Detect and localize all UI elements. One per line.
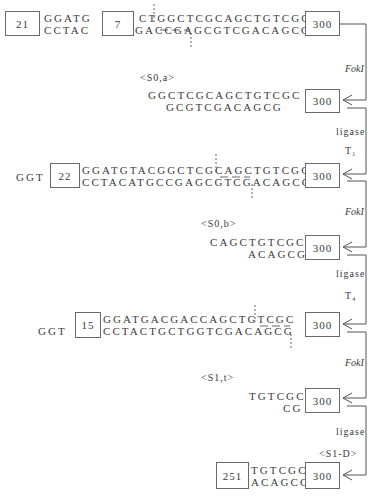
domain-box-251: 251 (216, 462, 249, 489)
strand-top: GGATGACGACCAGCTGTCGC (103, 313, 295, 325)
enzyme-label-ligase: ligase (336, 268, 365, 279)
state-label: <S1-D> (319, 448, 357, 459)
prefix-sequence: GGT (16, 171, 45, 183)
box-label: 300 (313, 242, 333, 254)
enzyme-label-foki: FokI (345, 63, 364, 74)
strand-top: TGTCGC (249, 390, 306, 402)
strand-bottom: ACAGCG (251, 476, 310, 488)
domain-box-300: 300 (305, 11, 340, 36)
domain-box-21: 21 (5, 11, 40, 36)
domain-box-15: 15 (75, 312, 101, 338)
box-label: 300 (313, 319, 333, 331)
box-label: 300 (313, 95, 333, 107)
state-label: <S1,t> (201, 372, 234, 383)
prefix-sequence: GGT (38, 325, 67, 337)
domain-box-300: 300 (305, 163, 340, 188)
transducer-label: T₄ (345, 290, 357, 301)
state-label: <S0,a> (140, 72, 175, 83)
domain-box-300: 300 (305, 388, 340, 413)
domain-box-300: 300 (305, 312, 340, 337)
enzyme-label-ligase: ligase (336, 426, 365, 437)
enzyme-label-foki: FokI (345, 357, 364, 368)
domain-box-22: 22 (50, 163, 80, 188)
strand-bottom: CG (283, 402, 302, 414)
domain-box-300: 300 (305, 462, 340, 489)
strand-bottom: CCTAC (44, 24, 90, 36)
strand-top: CTGGCTCGCAGCTGTCGC (139, 12, 311, 24)
strand-top: CAGCTGTCGC (210, 236, 306, 248)
box-label: 15 (82, 319, 95, 331)
box-label: 251 (223, 470, 243, 482)
box-label: 300 (313, 170, 333, 182)
domain-box-300: 300 (305, 235, 340, 260)
strand-bottom: GCGTCGACAGCG (166, 101, 283, 113)
box-label: 22 (59, 170, 72, 182)
domain-box-7: 7 (102, 11, 134, 36)
strand-top: GGCTCGCAGCTGTCGC (148, 89, 301, 101)
box-label: 300 (313, 18, 333, 30)
enzyme-label-ligase: ligase (336, 126, 365, 137)
strand-top: GGATGTACGGCTCGCAGCTGTCGC (82, 164, 311, 176)
box-label: 7 (115, 18, 122, 30)
strand-top: GGATG (44, 12, 92, 24)
strand-bottom: GACCGAGCGTCGACAGCG (135, 24, 311, 36)
box-label: 300 (313, 395, 333, 407)
strand-bottom: CCTACTGCTGGTCGACAGCG (103, 325, 294, 337)
box-label: 300 (313, 470, 333, 482)
enzyme-label-foki: FokI (345, 206, 364, 217)
state-label: <S0,b> (201, 218, 236, 229)
strand-bottom: ACAGCG (248, 248, 307, 260)
strand-bottom: CCTACATGCCGAGCGTCGACAGCG (82, 176, 312, 188)
domain-box-300: 300 (305, 89, 340, 113)
strand-top: TGTCGC (251, 464, 308, 476)
transducer-label: T₁ (345, 145, 357, 156)
box-label: 21 (16, 18, 29, 30)
